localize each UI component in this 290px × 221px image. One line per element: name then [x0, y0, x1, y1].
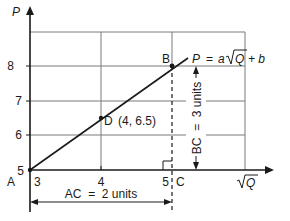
ac-label: AC = 2 units [65, 187, 137, 201]
equation-label: P = a Q + b [192, 50, 265, 66]
arrow-right-icon [164, 199, 172, 205]
svg-text:=: = [206, 52, 213, 66]
line-p-equation [30, 58, 188, 170]
arrow-down-icon [193, 162, 199, 170]
svg-text:Q: Q [246, 176, 255, 190]
x-tick-5: 5 [162, 175, 169, 189]
x-axis-arrow-icon [265, 166, 274, 174]
x-tick-3: 3 [34, 175, 41, 189]
axes [26, 6, 274, 212]
arrow-up-icon [193, 66, 199, 74]
linear-graph-diagram: P 8 7 6 5 3 4 5 Q A C B D (4, 6.5) P = a… [0, 0, 290, 221]
point-d-label: D (4, 6.5) [104, 114, 156, 128]
svg-text:Q: Q [235, 52, 244, 66]
svg-text:a: a [218, 52, 225, 66]
ac-dimension: AC = 2 units [30, 187, 172, 205]
svg-text:(4, 6.5): (4, 6.5) [118, 114, 156, 128]
y-tick-8: 8 [7, 59, 14, 73]
x-axis-label: Q [237, 175, 258, 190]
y-tick-6: 6 [15, 128, 22, 142]
right-angle-marker [163, 161, 172, 170]
y-axis-arrow-icon [26, 6, 34, 15]
point-b-label: B [162, 52, 170, 66]
arrow-left-icon [30, 199, 38, 205]
svg-text:P: P [192, 52, 200, 66]
y-tick-5: 5 [17, 164, 24, 178]
y-tick-7: 7 [15, 94, 22, 108]
bc-label: BC = 3 units [190, 82, 204, 154]
point-a [28, 168, 32, 172]
bc-dimension: BC = 3 units [186, 66, 206, 170]
svg-text:+ b: + b [248, 52, 265, 66]
point-c-label: C [176, 175, 185, 189]
y-axis-label: P [12, 5, 20, 19]
point-a-label: A [7, 175, 15, 189]
point-d [99, 116, 103, 120]
